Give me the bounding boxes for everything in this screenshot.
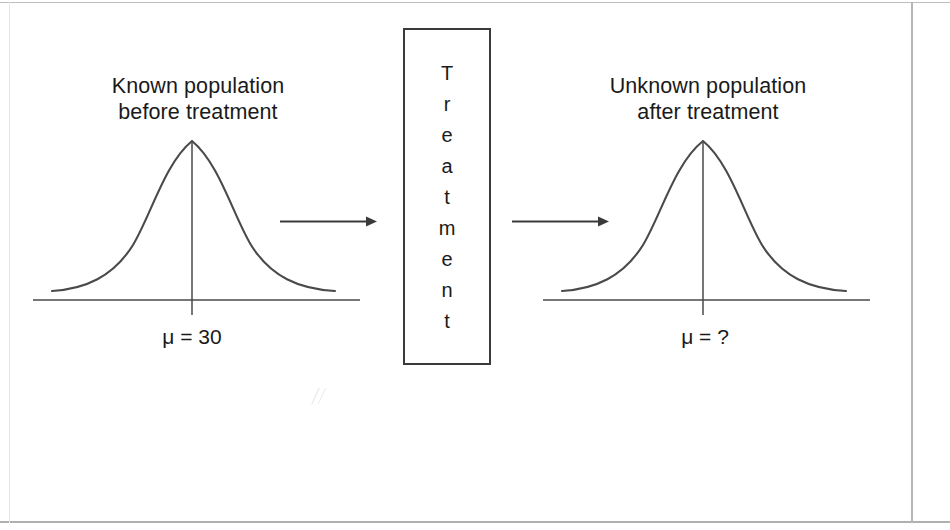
treatment-letter: e bbox=[441, 244, 452, 274]
treatment-letter: m bbox=[439, 213, 456, 243]
treatment-letter: e bbox=[441, 120, 452, 150]
treatment-letter: n bbox=[441, 275, 452, 305]
left-mean-label: μ = 30 bbox=[92, 325, 292, 349]
scan-artifact-smudge bbox=[300, 388, 334, 404]
page-border-top bbox=[0, 2, 950, 3]
right-normal-curve-chart bbox=[535, 125, 885, 315]
page-border-left bbox=[9, 2, 10, 523]
right-distribution-curve bbox=[562, 141, 846, 291]
left-distribution-title: Known population before treatment bbox=[48, 73, 348, 125]
treatment-letter: T bbox=[441, 58, 453, 88]
treatment-letter: t bbox=[444, 182, 450, 212]
figure-canvas: Known population before treatment μ = 30… bbox=[0, 0, 950, 530]
right-mean-label: μ = ? bbox=[605, 325, 805, 349]
treatment-letter: t bbox=[444, 306, 450, 336]
page-border-bottom bbox=[0, 521, 950, 523]
treatment-letter: r bbox=[444, 89, 451, 119]
right-distribution-title: Unknown population after treatment bbox=[558, 73, 858, 125]
treatment-letter: a bbox=[441, 151, 452, 181]
arrow-to-treatment-icon bbox=[278, 210, 378, 234]
treatment-box-label: T r e a t m e n t bbox=[403, 28, 491, 365]
page-border-right bbox=[911, 2, 913, 523]
